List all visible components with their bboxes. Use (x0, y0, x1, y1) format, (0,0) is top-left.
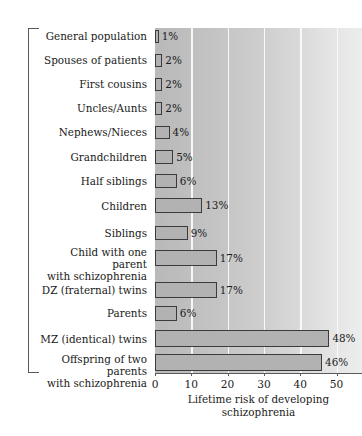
category-label-line2: with schizophrenia (39, 270, 147, 282)
y-axis-title: Relatives of Patients with Schizophrenia (0, 0, 22, 50)
category-label-line1: Children (39, 200, 147, 212)
chart-row: Siblings (39, 226, 362, 240)
category-label-line1: Grandchildren (39, 151, 147, 163)
tick-mark-0 (155, 373, 156, 376)
tick-mark-50 (337, 373, 338, 376)
chart-row: Child with one parentwith schizophrenia (39, 250, 362, 266)
category-label-line1: Half siblings (39, 175, 147, 187)
category-label: Offspring of two parentswith schizophren… (39, 353, 151, 389)
category-label: Grandchildren (39, 151, 151, 163)
category-label: Half siblings (39, 175, 151, 187)
category-label: First cousins (39, 78, 151, 90)
tick-mark-40 (300, 373, 301, 376)
tick-mark-10 (191, 373, 192, 376)
category-label-line1: Uncles/Aunts (39, 102, 147, 114)
category-label: Child with one parentwith schizophrenia (39, 246, 151, 282)
chart-row: Half siblings (39, 174, 362, 188)
x-axis-title: Lifetime risk of developing schizophreni… (155, 393, 362, 419)
chart-row: MZ (identical) twins (39, 330, 362, 347)
chart-row: First cousins (39, 78, 362, 91)
category-label-line1: Offspring of two parents (39, 353, 147, 377)
category-label-line1: First cousins (39, 78, 147, 90)
chart-row: Children (39, 198, 362, 213)
category-label-line1: Parents (39, 307, 147, 319)
x-tick-label-50: 50 (322, 378, 352, 390)
x-tick-label-10: 10 (176, 378, 206, 390)
chart-row: Uncles/Aunts (39, 102, 362, 115)
tick-mark-20 (228, 373, 229, 376)
x-axis-title-line2: schizophrenia (155, 406, 362, 419)
category-label: Nephews/Nieces (39, 126, 151, 138)
chart-row: Nephews/Nieces (39, 126, 362, 139)
chart-row: General population (39, 30, 362, 43)
category-label-line1: Child with one parent (39, 246, 147, 270)
category-label-line1: DZ (fraternal) twins (39, 284, 147, 296)
chart-row: Grandchildren (39, 150, 362, 164)
category-label: MZ (identical) twins (39, 333, 151, 345)
x-tick-label-40: 40 (285, 378, 315, 390)
category-label: Children (39, 200, 151, 212)
category-label-line1: General population (39, 30, 147, 42)
chart-rows: 1%2%2%2%4%5%6%13%9%17%17%6%48%46% Genera… (39, 28, 362, 373)
category-label: Parents (39, 307, 151, 319)
chart-row: Spouses of patients (39, 54, 362, 67)
category-label-line1: MZ (identical) twins (39, 333, 147, 345)
x-axis-title-line1: Lifetime risk of developing (155, 393, 362, 406)
category-label-line1: Spouses of patients (39, 54, 147, 66)
x-tick-label-0: 0 (140, 378, 170, 390)
chart-row: DZ (fraternal) twins (39, 282, 362, 298)
bar-chart-figure: Relatives of Patients with Schizophrenia… (0, 0, 362, 436)
category-label: Uncles/Aunts (39, 102, 151, 114)
category-label: General population (39, 30, 151, 42)
x-tick-label-30: 30 (249, 378, 279, 390)
y-axis-bracket (28, 28, 39, 373)
category-label: Spouses of patients (39, 54, 151, 66)
category-label-line2: with schizophrenia (39, 377, 147, 389)
category-label-line1: Nephews/Nieces (39, 126, 147, 138)
chart-row: Parents (39, 306, 362, 321)
category-label-line1: Siblings (39, 227, 147, 239)
chart-row: Offspring of two parentswith schizophren… (39, 354, 362, 371)
x-axis-line (155, 373, 362, 374)
category-label: Siblings (39, 227, 151, 239)
tick-mark-30 (264, 373, 265, 376)
x-tick-label-20: 20 (213, 378, 243, 390)
category-label: DZ (fraternal) twins (39, 284, 151, 296)
